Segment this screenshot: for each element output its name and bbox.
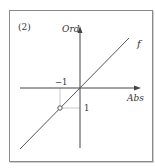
y-axis-label: Ord — [62, 24, 80, 34]
function-label: f — [136, 38, 143, 49]
function-line — [20, 38, 129, 149]
x-axis-arrow-icon — [134, 86, 141, 91]
tick-y-label: 1 — [84, 103, 89, 113]
panel-label: (2) — [18, 22, 31, 32]
open-point-marker — [58, 106, 62, 110]
x-axis-label: Abs — [126, 93, 144, 103]
tick-x-label: −1 — [55, 77, 68, 87]
function-plot: (2) Ord Abs f −1 1 — [0, 0, 155, 168]
